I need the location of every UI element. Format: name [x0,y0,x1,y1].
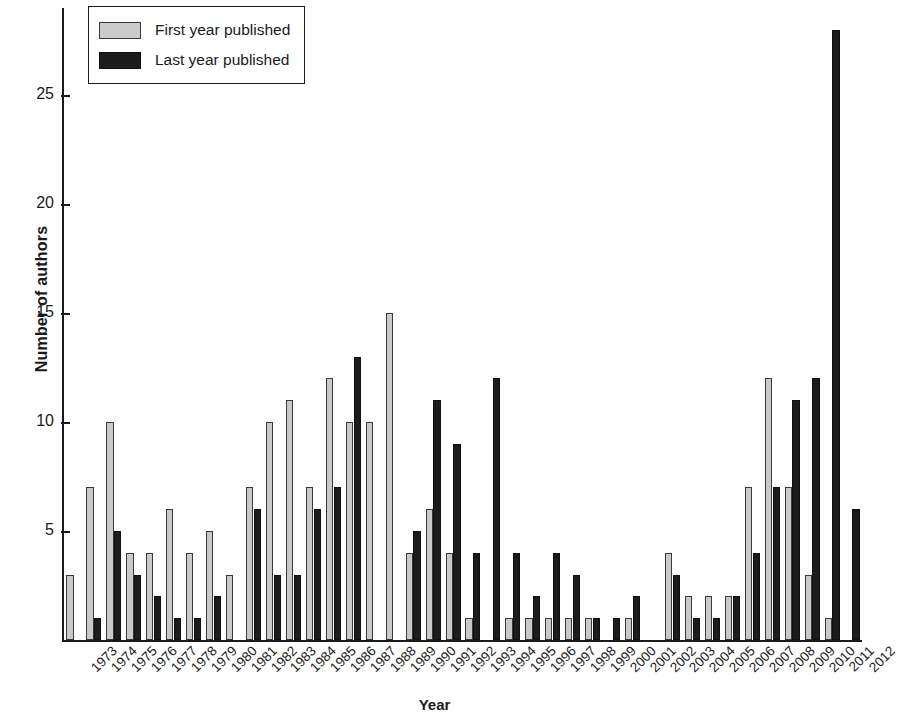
bar-first-year [505,618,512,640]
y-tick-label: 10 [36,412,54,430]
bar-first-year [805,575,812,640]
bars-layer [64,8,862,640]
bar-first-year [86,487,93,640]
bar-first-year [446,553,453,640]
year-group [603,8,623,640]
bar-last-year [613,618,620,640]
year-group [782,8,802,640]
bar-last-year [493,378,500,640]
year-group [164,8,184,640]
bar-first-year [226,575,233,640]
year-group [543,8,563,640]
legend-swatch-first [99,22,141,39]
bar-first-year [266,422,273,640]
bar-first-year [306,487,313,640]
bar-first-year [585,618,592,640]
year-group [84,8,104,640]
year-group [383,8,403,640]
year-group [742,8,762,640]
year-group [323,8,343,640]
bar-last-year [633,596,640,640]
bar-last-year [254,509,261,640]
x-axis-title: Year [0,696,869,713]
year-group [822,8,842,640]
bar-first-year [825,618,832,640]
bar-first-year [286,400,293,640]
year-group [303,8,323,640]
bar-last-year [533,596,540,640]
bar-last-year [94,618,101,640]
year-group [104,8,124,640]
bar-last-year [593,618,600,640]
year-group [802,8,822,640]
bar-last-year [294,575,301,640]
bar-first-year [146,553,153,640]
bar-last-year [354,357,361,640]
year-group [523,8,543,640]
year-group [144,8,164,640]
year-group [583,8,603,640]
bar-last-year [134,575,141,640]
bar-first-year [246,487,253,640]
year-group [204,8,224,640]
year-group [842,8,862,640]
bar-last-year [274,575,281,640]
legend-item: First year published [99,15,290,45]
bar-first-year [465,618,472,640]
bar-first-year [565,618,572,640]
bar-first-year [625,618,632,640]
y-tick-label: 15 [36,303,54,321]
year-group [483,8,503,640]
x-axis-line [62,640,862,642]
y-tick-label: 20 [36,194,54,212]
bar-last-year [314,509,321,640]
bar-first-year [186,553,193,640]
year-group [423,8,443,640]
y-tick-label: 5 [45,521,54,539]
bar-first-year [765,378,772,640]
y-tick-label: 25 [36,85,54,103]
bar-last-year [792,400,799,640]
bar-last-year [154,596,161,640]
bar-last-year [433,400,440,640]
year-group [403,8,423,640]
bar-last-year [852,509,859,640]
bar-first-year [665,553,672,640]
bar-first-year [106,422,113,640]
bar-last-year [673,575,680,640]
bar-last-year [473,553,480,640]
bar-last-year [773,487,780,640]
chart-legend: First year publishedLast year published [88,6,305,84]
bar-last-year [453,444,460,640]
legend-label: First year published [155,21,290,39]
bar-last-year [753,553,760,640]
year-group [363,8,383,640]
bar-last-year [553,553,560,640]
year-group [283,8,303,640]
bar-last-year [693,618,700,640]
bar-first-year [126,553,133,640]
year-group [463,8,483,640]
bar-first-year [66,575,73,640]
bar-last-year [214,596,221,640]
legend-label: Last year published [155,51,289,69]
legend-item: Last year published [99,45,290,75]
year-group [224,8,244,640]
bar-last-year [513,553,520,640]
bar-first-year [426,509,433,640]
year-group [682,8,702,640]
year-group [343,8,363,640]
bar-last-year [832,30,839,640]
year-group [722,8,742,640]
bar-last-year [713,618,720,640]
year-group [64,8,84,640]
bar-last-year [174,618,181,640]
bar-last-year [194,618,201,640]
year-group [124,8,144,640]
year-group [762,8,782,640]
year-group [264,8,284,640]
bar-last-year [733,596,740,640]
bar-first-year [346,422,353,640]
bar-last-year [812,378,819,640]
